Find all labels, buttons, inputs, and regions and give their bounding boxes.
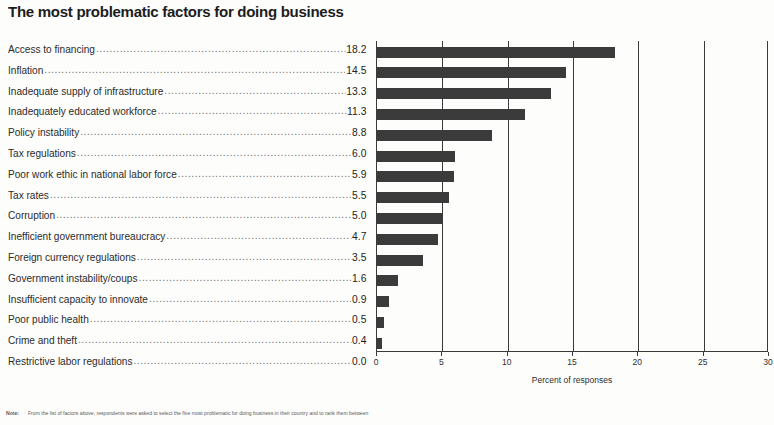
dot-leader: ........................................… [80, 126, 351, 137]
category-label: Inefficient government bureaucracy [8, 231, 165, 242]
dot-leader: ........................................… [90, 313, 351, 324]
chart-title: The most problematic factors for doing b… [8, 3, 344, 21]
dot-leader: ........................................… [78, 334, 351, 345]
plot-area [376, 41, 768, 352]
category-label: Tax rates [8, 190, 49, 201]
note-label: Note: [6, 410, 19, 416]
value-label: 0.5 [352, 314, 366, 325]
gridline [573, 41, 574, 351]
dot-leader: ........................................… [137, 251, 351, 262]
category-label: Poor work ethic in national labor force [8, 169, 177, 180]
tick-label: 25 [698, 357, 707, 367]
dot-leader: ........................................… [166, 230, 351, 241]
gridline [508, 41, 509, 351]
category-label: Restrictive labor regulations [8, 356, 132, 367]
row-label-line: Tax regulations.........................… [8, 148, 366, 159]
dot-leader: ........................................… [56, 209, 351, 220]
category-label: Government instability/coups [8, 273, 138, 284]
row-label-line: Foreign currency regulations............… [8, 252, 366, 263]
x-axis-title: Percent of responses [376, 375, 768, 385]
dot-leader: ........................................… [164, 85, 345, 96]
category-label: Poor public health [8, 314, 89, 325]
row-label-line: Crime and theft.........................… [8, 335, 366, 346]
category-label: Foreign currency regulations [8, 252, 136, 263]
row-label-line: Poor work ethic in national labor force.… [8, 169, 366, 180]
gridline [442, 41, 443, 351]
category-label: Crime and theft [8, 335, 77, 346]
dot-leader: ........................................… [44, 64, 345, 75]
tick-label: 30 [763, 357, 772, 367]
gridline [704, 41, 705, 351]
tick-label: 5 [439, 357, 444, 367]
dot-leader: ........................................… [133, 355, 351, 366]
value-label: 11.3 [347, 106, 366, 117]
row-label-line: Inefficient government bureaucracy......… [8, 231, 366, 242]
value-label: 5.0 [352, 210, 366, 221]
category-label: Access to financing [8, 44, 95, 55]
dot-leader: ........................................… [138, 272, 351, 283]
row-label-line: Poor public health......................… [8, 314, 366, 325]
tick-label: 15 [567, 357, 576, 367]
value-label: 5.9 [352, 169, 366, 180]
value-label: 5.5 [352, 190, 366, 201]
value-label: 0.4 [352, 335, 366, 346]
dot-leader: ........................................… [178, 168, 351, 179]
value-label: 1.6 [352, 273, 366, 284]
dot-leader: ........................................… [96, 43, 345, 54]
category-label: Inadequately educated workforce [8, 106, 157, 117]
dot-leader: ........................................… [50, 189, 351, 200]
category-label: Insufficient capacity to innovate [8, 294, 148, 305]
category-label: Inadequate supply of infrastructure [8, 86, 163, 97]
note-text: From the list of factors above, responde… [28, 410, 768, 416]
category-label: Tax regulations [8, 148, 76, 159]
value-label: 3.5 [352, 252, 366, 263]
value-label: 0.9 [352, 294, 366, 305]
category-label: Policy instability [8, 127, 79, 138]
row-label-line: Corruption..............................… [8, 210, 366, 221]
category-label: Corruption [8, 210, 55, 221]
row-label-line: Inadequately educated workforce.........… [8, 106, 366, 117]
tick-mark [441, 352, 442, 356]
dot-leader: ........................................… [158, 105, 347, 116]
value-label: 6.0 [352, 148, 366, 159]
tick-mark [768, 352, 769, 356]
tick-label: 0 [374, 357, 379, 367]
row-label-line: Inflation...............................… [8, 65, 366, 76]
gridline [638, 41, 639, 351]
value-label: 4.7 [352, 231, 366, 242]
value-label: 14.5 [346, 65, 366, 76]
dot-leader: ........................................… [77, 147, 351, 158]
value-label: 8.8 [352, 127, 366, 138]
row-label-line: Access to financing.....................… [8, 44, 366, 55]
row-label-line: Inadequate supply of infrastructure.....… [8, 86, 366, 97]
row-label-line: Tax rates...............................… [8, 190, 366, 201]
category-label: Inflation [8, 65, 43, 76]
row-label-line: Government instability/coups............… [8, 273, 366, 284]
tick-mark [572, 352, 573, 356]
chart-figure: The most problematic factors for doing b… [0, 0, 774, 425]
value-label: 18.2 [346, 44, 366, 55]
value-label: 13.3 [346, 86, 366, 97]
value-label: 0.0 [352, 356, 366, 367]
dot-leader: ........................................… [149, 293, 351, 304]
tick-label: 10 [502, 357, 511, 367]
tick-mark [376, 352, 377, 356]
chart-row: Restrictive labor regulations...........… [0, 354, 774, 375]
tick-mark [507, 352, 508, 356]
row-label-line: Restrictive labor regulations...........… [8, 356, 366, 367]
tick-mark [703, 352, 704, 356]
tick-mark [637, 352, 638, 356]
row-label-line: Policy instability......................… [8, 127, 366, 138]
tick-label: 20 [633, 357, 642, 367]
row-label-line: Insufficient capacity to innovate.......… [8, 294, 366, 305]
